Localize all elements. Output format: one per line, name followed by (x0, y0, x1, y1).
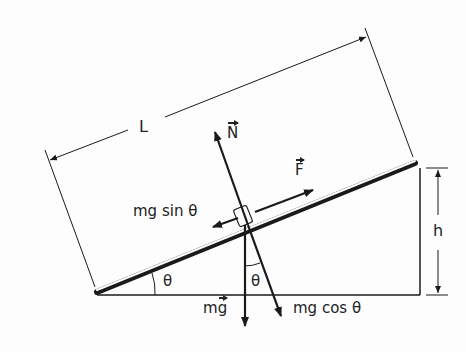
mg-cos-label: mg cos θ (293, 301, 361, 316)
incline-angle-label: θ (163, 274, 172, 289)
weight-mass: m (203, 299, 218, 317)
mg-sin-arrow (213, 218, 238, 227)
normal-force-symbol: N (227, 126, 238, 141)
mg-cos-arrow (248, 225, 281, 316)
length-label: L (139, 119, 148, 135)
normal-force-arrow (215, 132, 248, 225)
diagram-canvas (0, 0, 466, 352)
height-label: h (433, 223, 443, 239)
normal-force-label: N (227, 126, 238, 141)
length-dimension (45, 28, 413, 287)
applied-force-label: F (295, 163, 304, 178)
incline-angle-arc (152, 273, 155, 295)
weight-label: mg (203, 301, 227, 316)
vertical-angle-label: θ (251, 274, 260, 289)
vertical-angle-arc (245, 263, 260, 266)
mg-sin-label: mg sin θ (133, 204, 197, 219)
weight-gravity-symbol: g (218, 301, 228, 316)
inclined-plane-diagram: L h N F mg sin θ mg cos θ mg θ θ (0, 0, 466, 352)
applied-force-symbol: F (295, 163, 304, 178)
